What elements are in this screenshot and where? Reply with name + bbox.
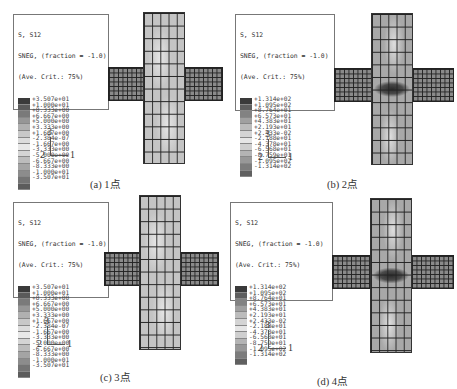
panel-b: S, S12 SNEG, (fraction = -1.0) (Ave. Cri…: [230, 0, 457, 195]
legend-swatch: [18, 345, 30, 352]
legend-swatch: [240, 157, 252, 164]
legend-swatch: [18, 184, 30, 191]
axis-triad-a: 3 2 1: [40, 126, 80, 166]
legend-swatch: [240, 138, 252, 145]
legend-value: -3.507e+01: [32, 362, 69, 368]
legend-swatch: [18, 177, 30, 184]
color-scale: [18, 286, 30, 378]
legend-title: S, S12 SNEG, (fraction = -1.0) (Ave. Cri…: [235, 206, 328, 283]
legend-swatch: [240, 105, 252, 112]
legend-swatch: [18, 332, 30, 339]
legend-swatch: [18, 319, 30, 326]
legend-swatch: [235, 299, 247, 306]
legend-swatch: [18, 306, 30, 313]
mesh-contour-c: [104, 195, 219, 350]
column-mesh: [371, 13, 413, 165]
beam-left-mesh: [108, 67, 144, 101]
legend-swatch: [240, 151, 252, 158]
legend-swatch: [18, 365, 30, 372]
panel-d: S, S12 SNEG, (fraction = -1.0) (Ave. Cri…: [230, 195, 457, 389]
legend-swatch: [18, 312, 30, 319]
beam-right-mesh: [184, 67, 223, 101]
legend-title: S, S12 SNEG, (fraction = -1.0) (Ave. Cri…: [18, 18, 104, 95]
legend-swatch: [18, 151, 30, 158]
legend-swatch: [235, 312, 247, 319]
legend-swatch: [18, 124, 30, 131]
column-mesh: [143, 12, 185, 164]
column-mesh: [139, 195, 181, 350]
legend-swatch: [18, 144, 30, 151]
legend-swatch: [18, 326, 30, 333]
legend-b: S, S12 SNEG, (fraction = -1.0) (Ave. Cri…: [235, 14, 335, 111]
legend-swatch: [235, 359, 247, 366]
legend-swatch: [18, 171, 30, 178]
beam-right-mesh: [180, 252, 219, 286]
legend-swatch: [18, 352, 30, 359]
legend-swatch: [240, 164, 252, 171]
legend-swatch: [240, 144, 252, 151]
mesh-contour-d: [332, 198, 454, 353]
legend-swatch: [18, 299, 30, 306]
legend-swatch: [18, 157, 30, 164]
caption-c: (c) 3点: [100, 369, 130, 384]
legend-swatch: [235, 326, 247, 333]
caption-d: (d) 4点: [317, 373, 347, 388]
legend-swatch: [240, 124, 252, 131]
beam-left-mesh: [104, 252, 140, 286]
legend-swatch: [235, 332, 247, 339]
legend-swatch: [18, 359, 30, 366]
axis-triad-d: 3 2 1: [258, 319, 298, 359]
mesh-contour-a: [108, 12, 223, 164]
beam-left-mesh: [334, 68, 372, 102]
mesh-contour-b: [334, 13, 454, 165]
legend-swatch: [235, 306, 247, 313]
legend-swatch: [235, 352, 247, 359]
legend-swatch: [18, 293, 30, 300]
legend-swatch: [235, 293, 247, 300]
legend-swatch: [18, 105, 30, 112]
color-scale: [18, 98, 30, 190]
beam-right-mesh: [412, 68, 454, 102]
legend-swatch: [235, 286, 247, 293]
column-mesh: [370, 198, 412, 353]
legend-title: S, S12 SNEG, (fraction = -1.0) (Ave. Cri…: [18, 206, 104, 283]
legend-swatch: [235, 319, 247, 326]
legend-a: S, S12 SNEG, (fraction = -1.0) (Ave. Cri…: [13, 14, 109, 110]
legend-swatch: [240, 98, 252, 105]
legend-swatch: [18, 372, 30, 379]
legend-swatch: [18, 138, 30, 145]
legend-c: S, S12 SNEG, (fraction = -1.0) (Ave. Cri…: [13, 202, 109, 298]
panel-a: S, S12 SNEG, (fraction = -1.0) (Ave. Cri…: [0, 0, 228, 195]
legend-swatch: [18, 111, 30, 118]
legend-d: S, S12 SNEG, (fraction = -1.0) (Ave. Cri…: [230, 202, 333, 301]
caption-a: (a) 1点: [90, 176, 120, 191]
beam-right-mesh: [411, 255, 454, 289]
legend-swatch: [18, 339, 30, 346]
axis-triad-c: 3 2 1: [37, 315, 77, 355]
color-scale: [240, 98, 252, 177]
legend-swatch: [18, 98, 30, 105]
legend-swatch: [240, 111, 252, 118]
legend-swatch: [235, 345, 247, 352]
legend-title: S, S12 SNEG, (fraction = -1.0) (Ave. Cri…: [240, 18, 330, 95]
panel-c: S, S12 SNEG, (fraction = -1.0) (Ave. Cri…: [0, 195, 228, 389]
caption-b: (b) 2点: [327, 176, 357, 191]
legend-value: -3.507e+01: [32, 174, 69, 180]
legend-swatch: [240, 171, 252, 178]
color-scale: [235, 286, 247, 365]
legend-swatch: [240, 131, 252, 138]
legend-swatch: [18, 164, 30, 171]
axis-triad-b: 3 2 1: [258, 128, 298, 168]
legend-swatch: [18, 286, 30, 293]
beam-left-mesh: [332, 255, 371, 289]
legend-swatch: [18, 131, 30, 138]
legend-swatch: [240, 118, 252, 125]
legend-swatch: [235, 339, 247, 346]
legend-swatch: [18, 118, 30, 125]
